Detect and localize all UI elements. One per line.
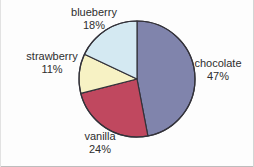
pie-label-chocolate-name: chocolate — [184, 57, 252, 70]
pie-label-strawberry-name: strawberry — [6, 50, 98, 63]
pie-label-vanilla-percent: 24% — [58, 143, 142, 156]
pie-label-chocolate-percent: 47% — [184, 70, 252, 83]
pie-chart-figure: blueberry 18% strawberry 11% chocolate 4… — [0, 0, 254, 167]
pie-label-blueberry-percent: 18% — [52, 19, 136, 32]
pie-label-blueberry: blueberry 18% — [52, 6, 136, 32]
pie-label-strawberry-percent: 11% — [6, 63, 98, 76]
pie-label-vanilla: vanilla 24% — [58, 130, 142, 156]
pie-label-strawberry: strawberry 11% — [6, 50, 98, 76]
pie-slice-group — [79, 21, 195, 137]
pie-label-blueberry-name: blueberry — [52, 6, 136, 19]
pie-label-vanilla-name: vanilla — [58, 130, 142, 143]
pie-label-chocolate: chocolate 47% — [184, 57, 252, 83]
